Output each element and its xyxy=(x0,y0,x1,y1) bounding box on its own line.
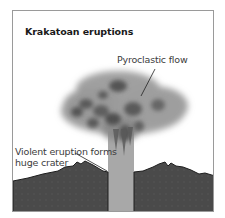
diagram-frame: Krakatoan eruptions Pyroclastic flow Vio… xyxy=(12,10,214,212)
crater-label-line2: huge crater xyxy=(15,157,117,168)
crater-label-line1: Violent eruption forms xyxy=(15,146,117,157)
eruption-illustration xyxy=(13,11,214,212)
ground-left xyxy=(13,161,108,212)
ground-right xyxy=(134,162,214,212)
diagram-title: Krakatoan eruptions xyxy=(25,26,133,37)
crater-label: Violent eruption forms huge crater xyxy=(15,146,117,168)
pyroclastic-flow-label: Pyroclastic flow xyxy=(117,54,187,65)
